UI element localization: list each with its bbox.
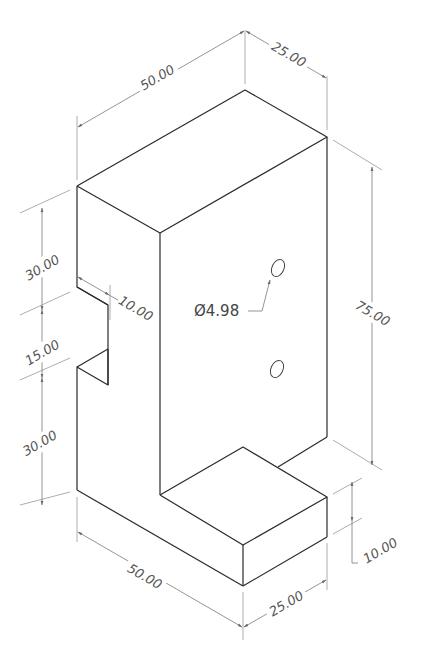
hole-lower	[268, 358, 286, 379]
label-height-total: 75.00	[353, 298, 393, 330]
isometric-part-drawing: 50.00 25.00 30.00 15.00 30.00 10.00 Ø4.9…	[0, 0, 423, 665]
hole-upper	[269, 257, 287, 278]
label-bottom-width: 50.00	[125, 561, 165, 593]
dim-height-total: 75.00	[333, 140, 396, 470]
dim-top-depth: 25.00	[246, 31, 327, 130]
label-slot-depth: 10.00	[116, 293, 156, 325]
label-base-height: 10.00	[360, 535, 400, 567]
dim-bottom-width: 50.00	[77, 497, 243, 640]
part-outline	[77, 90, 327, 586]
label-top-depth: 25.00	[269, 39, 309, 71]
dim-left-stack: 30.00 15.00 30.00	[20, 190, 70, 505]
label-bottom-depth: 25.00	[266, 588, 306, 620]
dim-hole: Ø4.98	[194, 280, 270, 320]
dim-base-height: 10.00	[333, 478, 400, 566]
dim-bottom-depth: 25.00	[244, 543, 327, 627]
label-left-lower: 30.00	[20, 427, 60, 459]
dim-slot-depth: 10.00	[78, 277, 156, 324]
label-hole-diameter: Ø4.98	[194, 302, 239, 320]
label-top-width: 50.00	[137, 62, 177, 94]
